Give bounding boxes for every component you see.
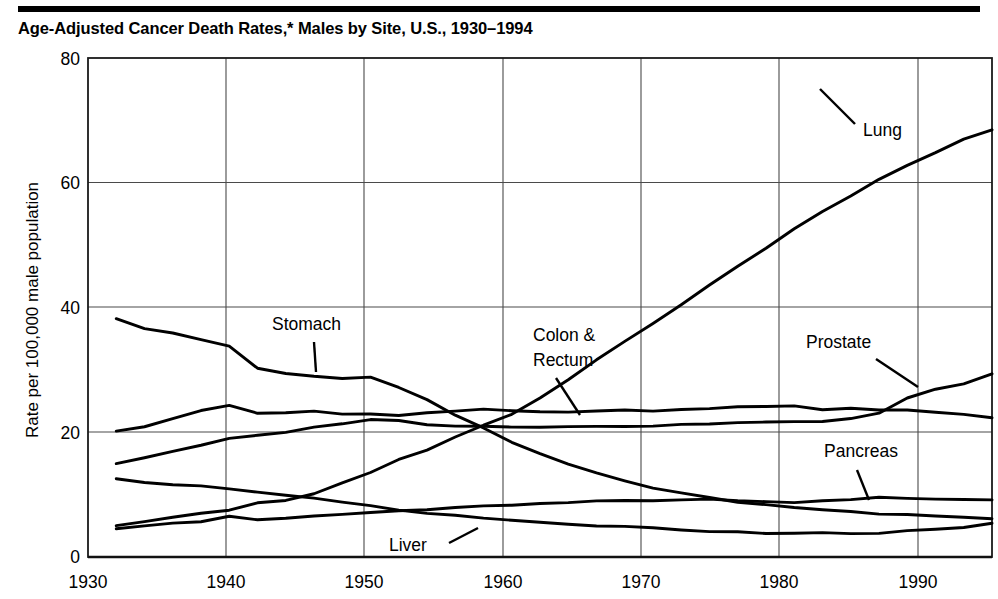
x-tick-1950: 1950	[345, 572, 384, 592]
leader-line-stomach	[314, 342, 316, 372]
line-chart: Rate per 100,000 male population 80 60 4…	[0, 0, 998, 599]
leader-line-colon-rectum	[556, 378, 580, 415]
x-tick-1940: 1940	[207, 572, 246, 592]
gridlines	[88, 58, 992, 557]
series-label-liver: Liver	[389, 535, 427, 555]
chart-container: Rate per 100,000 male population 80 60 4…	[0, 0, 998, 599]
series-label-colon-line1: Colon &	[533, 325, 596, 345]
y-tick-60: 60	[61, 173, 81, 193]
y-tick-0: 0	[70, 547, 80, 567]
x-tick-1930: 1930	[69, 572, 108, 592]
leader-line-prostate	[876, 359, 918, 387]
series-label-pancreas: Pancreas	[824, 441, 898, 461]
y-axis-title: Rate per 100,000 male population	[23, 182, 42, 438]
leader-line-liver	[449, 528, 478, 543]
series-label-colon-line2: Rectum	[533, 350, 593, 370]
x-tick-1980: 1980	[760, 572, 799, 592]
series-label-prostate: Prostate	[806, 332, 871, 352]
x-tick-1960: 1960	[484, 572, 523, 592]
y-tick-80: 80	[61, 49, 81, 69]
leader-line-lung	[820, 89, 855, 124]
leader-line-pancreas	[857, 470, 869, 500]
x-tick-1970: 1970	[622, 572, 661, 592]
x-tick-1990: 1990	[899, 572, 938, 592]
series-label-lung: Lung	[863, 120, 902, 140]
annotations: Lung Stomach Colon & Rectum Prostate Pan…	[272, 89, 918, 555]
chart-page: Age-Adjusted Cancer Death Rates,* Males …	[0, 0, 998, 599]
y-tick-40: 40	[61, 298, 81, 318]
y-tick-20: 20	[61, 423, 81, 443]
series-label-stomach: Stomach	[272, 314, 341, 334]
